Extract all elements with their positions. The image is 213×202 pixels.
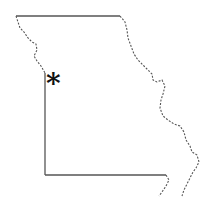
state-outline-map [0, 0, 213, 202]
bootheel-border [159, 175, 169, 196]
northwest-river-border [16, 16, 45, 73]
east-river-border [120, 16, 199, 196]
location-marker-asterisk: * [46, 70, 61, 98]
